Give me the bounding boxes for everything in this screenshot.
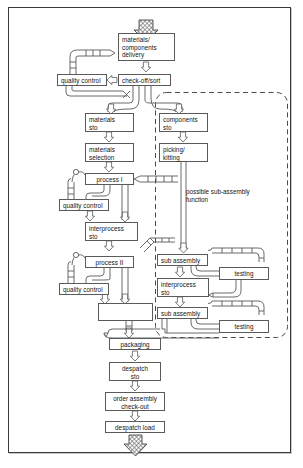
node-process-2[interactable]: process II (85, 256, 134, 268)
connector-selection-to-process1 (104, 162, 113, 172)
node-quality-control-1[interactable]: quality control (57, 74, 107, 86)
connector-packaging-to-despatch-sto (130, 351, 139, 361)
connector-components-sto-to-picking (178, 132, 187, 142)
node-check-off-sort[interactable]: check-off/sort (118, 74, 171, 86)
node-materials-components-delivery[interactable]: materials/ components delivery (118, 33, 175, 61)
node-materials-selection[interactable]: materials selection (85, 143, 134, 162)
output-despatch-arrow (124, 435, 147, 456)
connector-qc2-to-interprocess1 (85, 211, 94, 221)
connector-interprocess1-to-process2 (104, 241, 113, 251)
node-testing-1[interactable]: testing (219, 267, 269, 280)
node-picking-kitting[interactable]: picking/ kitting (159, 143, 208, 162)
connector-testing1-to-interprocess2 (208, 280, 241, 297)
connector-assembly-to-packaging (124, 321, 133, 338)
connector-order-checkout-to-despatch-load (130, 411, 139, 421)
connector-delivery-to-checkoff (141, 62, 150, 72)
node-quality-control-2[interactable]: quality control (59, 199, 109, 211)
node-interprocess-sto-1[interactable]: interprocess sto (85, 222, 138, 241)
node-quality-control-3[interactable]: quality control (59, 283, 109, 295)
flowchart-page: materials/ components delivery quality c… (0, 0, 303, 468)
connector-materials-sto-to-selection (104, 132, 113, 142)
node-sub-assembly-2[interactable]: sub assembly (157, 307, 208, 319)
annotation-possible-sub-assembly-function: possible sub-assembly function (186, 188, 286, 205)
connector-qc1-to-delivery (70, 50, 115, 74)
node-despatch-sto[interactable]: despatch sto (109, 362, 161, 381)
node-sub-assembly-1[interactable]: sub assembly (157, 254, 208, 266)
node-interprocess-sto-2[interactable]: interprocess sto (157, 278, 209, 297)
connector-despatch-sto-to-order-checkout (130, 381, 139, 391)
connector-subassembly1-to-interprocess2 (175, 267, 184, 277)
connector-checkoff-split (66, 86, 184, 114)
node-components-sto[interactable]: components sto (159, 113, 208, 132)
node-process-1[interactable]: process I (85, 173, 134, 185)
connector-process1-to-kitting-pipe (134, 176, 178, 182)
connector-picking-to-subassembly (179, 162, 188, 253)
node-materials-sto[interactable]: materials sto (85, 113, 134, 132)
connector-checkoff-to-qc1 (107, 75, 117, 84)
connector-interprocess2-to-subassembly2 (175, 297, 184, 307)
node-unlabeled-assembly[interactable] (98, 303, 153, 321)
connector-testing2-to-packaging (104, 319, 219, 338)
connector-interprocess1-to-subassembly (140, 238, 175, 252)
node-despatch-load[interactable]: despatch load (105, 421, 165, 433)
node-testing-2[interactable]: testing (219, 320, 269, 333)
node-order-assembly-check-out[interactable]: order assembly check-out (105, 392, 165, 411)
node-packaging[interactable]: packaging (109, 338, 161, 350)
